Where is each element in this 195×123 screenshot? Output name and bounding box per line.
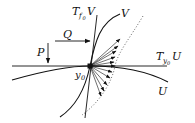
label-point-y0: y 0 bbox=[74, 69, 85, 82]
svg-text:U: U bbox=[172, 50, 182, 63]
label-Q: Q bbox=[63, 28, 72, 41]
svg-text:0: 0 bbox=[81, 74, 85, 82]
label-curve-U: U bbox=[158, 85, 168, 98]
svg-text:V: V bbox=[87, 5, 96, 18]
svg-text:0: 0 bbox=[83, 15, 87, 21]
point-y0 bbox=[88, 64, 93, 69]
diagram-canvas: T f 0 V V Q P T y 0 U U y 0 bbox=[0, 0, 195, 123]
label-curve-V: V bbox=[121, 7, 130, 20]
label-tangent-V: T f 0 V bbox=[72, 5, 96, 21]
label-tangent-U: T y 0 U bbox=[156, 50, 182, 66]
svg-text:0: 0 bbox=[167, 60, 171, 66]
label-P: P bbox=[36, 46, 45, 59]
svg-text:y: y bbox=[74, 69, 81, 80]
